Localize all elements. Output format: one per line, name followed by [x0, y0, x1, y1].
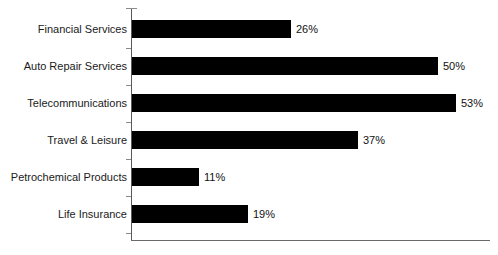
bar-row: Travel & Leisure37% [0, 131, 498, 149]
bar[interactable] [132, 20, 291, 38]
bar-value-label: 11% [204, 168, 225, 186]
horizontal-bar-chart: Financial Services26%Auto Repair Service… [0, 0, 498, 255]
bar-row: Life Insurance19% [0, 205, 498, 223]
category-label: Telecommunications [27, 94, 127, 112]
bar-value-label: 26% [296, 20, 318, 38]
category-label: Financial Services [38, 20, 127, 38]
category-label: Life Insurance [58, 205, 127, 223]
category-label: Auto Repair Services [24, 57, 127, 75]
bar[interactable] [132, 94, 456, 112]
x-axis-line [131, 240, 490, 241]
bar[interactable] [132, 205, 248, 223]
category-label: Travel & Leisure [47, 131, 127, 149]
y-axis-tick [126, 233, 131, 234]
bar[interactable] [132, 57, 438, 75]
y-axis-tick [126, 122, 131, 123]
y-axis-tick [126, 159, 131, 160]
bar-value-label: 50% [443, 57, 465, 75]
bar-row: Financial Services26% [0, 20, 498, 38]
y-axis-tick [126, 48, 131, 49]
bar[interactable] [132, 168, 199, 186]
bar-row: Auto Repair Services50% [0, 57, 498, 75]
bar-row: Telecommunications53% [0, 94, 498, 112]
y-axis-tick [126, 196, 131, 197]
bar-value-label: 37% [363, 131, 385, 149]
bar[interactable] [132, 131, 358, 149]
y-axis-top-tick [126, 8, 137, 9]
bar-value-label: 19% [253, 205, 275, 223]
bar-value-label: 53% [461, 94, 483, 112]
bar-row: Petrochemical Products11% [0, 168, 498, 186]
y-axis-tick [126, 85, 131, 86]
category-label: Petrochemical Products [11, 168, 127, 186]
